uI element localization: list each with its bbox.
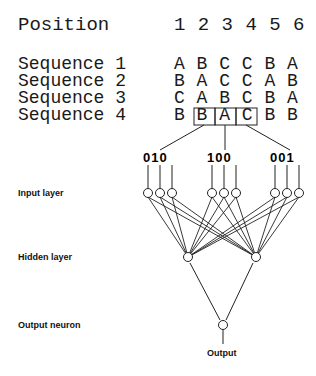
input-node-2 [156,189,165,198]
encoding-c-bits: 001 [270,150,295,165]
encoding-b-bits: 010 [143,150,168,165]
hidden-layer-label: Hidden layer [18,252,72,262]
input-node-8 [283,189,292,198]
input-node-6 [232,189,241,198]
input-node-1 [144,189,153,198]
input-node-3 [168,189,177,198]
output-neuron-label: Output neuron [18,320,81,330]
input-node-4 [208,189,217,198]
window-box-a [215,108,236,125]
output-label: Output [207,348,237,358]
output-node [219,321,228,330]
hidden-node-2 [252,253,261,262]
input-node-5 [220,189,229,198]
hidden-node-1 [184,253,193,262]
window-box-b [194,108,215,125]
input-node-9 [295,189,304,198]
input-layer-label: Input layer [18,188,64,198]
input-node-7 [271,189,280,198]
encoding-a-bits: 100 [207,150,232,165]
window-box-c [236,108,257,125]
